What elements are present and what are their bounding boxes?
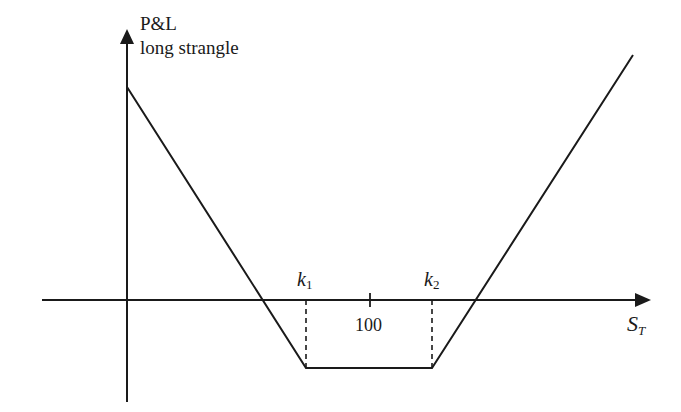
k2-main: k: [424, 268, 433, 290]
y-axis-arrow-icon: [120, 29, 134, 44]
k2-label: k2: [424, 269, 439, 291]
strangle-payoff-chart: P&L long strangle k1 k2 100 ST: [0, 0, 681, 412]
x-label-main: S: [627, 311, 638, 336]
k2-sub: 2: [433, 277, 440, 292]
chart-canvas: [0, 0, 681, 412]
y-label-line2: long strangle: [140, 36, 239, 60]
k1-main: k: [297, 268, 306, 290]
y-label-line1: P&L: [140, 12, 239, 36]
k1-label: k1: [297, 269, 312, 291]
y-axis-label: P&L long strangle: [140, 12, 239, 60]
tick-100-label: 100: [355, 316, 382, 334]
x-axis-label: ST: [627, 313, 645, 337]
x-label-sub: T: [638, 323, 645, 338]
k1-sub: 1: [306, 277, 313, 292]
x-axis-arrow-icon: [635, 293, 651, 307]
